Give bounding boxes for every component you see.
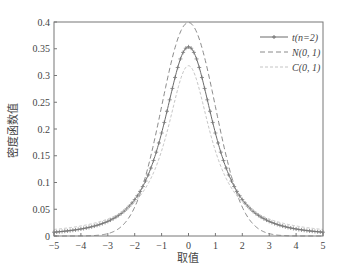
legend-label: t(n=2) [292,32,319,44]
series-line [54,47,323,232]
x-tick-label: −3 [102,240,113,251]
y-axis-title: 密度函数值 [6,103,20,158]
x-tick-label: 2 [240,240,245,251]
y-tick-label: 0.2 [38,124,51,135]
y-tick-label: 0.3 [38,70,51,81]
x-tick-label: 4 [294,240,299,251]
x-tick-label: 3 [267,240,272,251]
x-tick-label: 1 [213,240,218,251]
legend-label: C(0, 1) [292,62,321,74]
y-tick-label: 0.05 [33,204,51,215]
x-tick-label: −5 [49,240,60,251]
x-tick-label: −1 [156,240,167,251]
x-tick-label: −2 [129,240,140,251]
y-tick-label: 0.4 [38,17,51,28]
plot-area [52,23,325,236]
y-tick-label: 0.35 [33,43,51,54]
x-tick-label: −4 [76,240,87,251]
y-tick-label: 0.1 [38,177,51,188]
axes-frame [54,22,323,236]
legend-label: N(0, 1) [291,47,321,59]
x-tick-label: 0 [186,240,191,251]
y-tick-label: 0.25 [33,97,51,108]
y-tick-label: 0.15 [33,150,51,161]
y-tick-label: 0 [45,231,50,242]
x-tick-label: 5 [321,240,326,251]
series-line [54,66,323,230]
density-chart: −5−4−3−2−101234500.050.10.150.20.250.30.… [0,0,338,280]
axes: −5−4−3−2−101234500.050.10.150.20.250.30.… [33,17,326,252]
series-line [54,23,323,236]
x-axis-title: 取值 [177,252,199,265]
legend: t(n=2)N(0, 1)C(0, 1) [260,32,321,74]
